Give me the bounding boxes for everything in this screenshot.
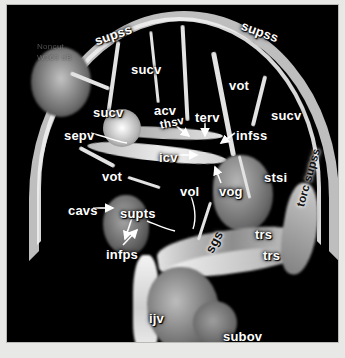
- annotation-label-terv: terv: [195, 111, 220, 124]
- cavernous-sinus-mass: [103, 195, 149, 255]
- annotation-label-icv: icv: [159, 151, 178, 164]
- annotation-label-sucv-left: sucv: [93, 106, 123, 119]
- annotation-label-sepv: sepv: [64, 129, 94, 142]
- annotation-label-ijv: ijv: [149, 312, 164, 325]
- annotation-label-supts: supts: [120, 207, 156, 220]
- annotation-label-infss: infss: [236, 129, 267, 142]
- annotation-label-stsi: stsi: [264, 171, 287, 184]
- annotation-label-sucv-top: sucv: [131, 63, 161, 76]
- annotation-label-trs-upper: trs: [255, 228, 272, 241]
- annotation-label-subov: subov: [223, 330, 262, 342]
- annotation-label-vog: vog: [219, 185, 243, 198]
- annotation-label-trs-lower: trs: [263, 249, 280, 262]
- annotation-label-vol: vol: [180, 185, 199, 198]
- venogram-image: Noncut W163 dB: [7, 5, 338, 342]
- annotation-label-cavs: cavs: [68, 204, 98, 217]
- annotation-label-sucv-right: sucv: [271, 109, 301, 122]
- annotation-label-vot-mid: vot: [102, 170, 122, 183]
- figure-container: Noncut W163 dB: [0, 0, 345, 358]
- annotation-label-vot-top: vot: [229, 79, 249, 92]
- frontal-vein-tangle: [31, 47, 91, 117]
- annotation-label-infps: infps: [106, 248, 138, 261]
